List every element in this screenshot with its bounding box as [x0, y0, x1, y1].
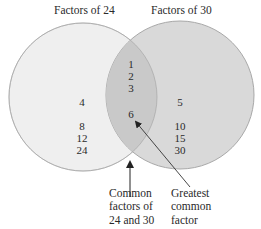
value-30: 30: [168, 144, 192, 156]
caption-greatest-common-factor: Greatest common factor: [171, 187, 211, 227]
value-24: 24: [70, 144, 94, 156]
caption-line: factors of: [109, 200, 154, 213]
value-12: 12: [70, 132, 94, 144]
caption-line: Common: [109, 187, 154, 200]
caption-line: common: [171, 200, 211, 213]
value-3: 3: [119, 82, 143, 94]
value-2: 2: [119, 70, 143, 82]
caption-line: 24 and 30: [109, 214, 154, 227]
value-8: 8: [70, 120, 94, 132]
value-6: 6: [119, 108, 143, 120]
value-15: 15: [168, 132, 192, 144]
caption-line: Greatest: [171, 187, 211, 200]
value-5: 5: [168, 96, 192, 108]
caption-common-factors: Common factors of 24 and 30: [109, 187, 154, 227]
set-label-factors-30: Factors of 30: [151, 4, 212, 17]
set-label-factors-24: Factors of 24: [54, 4, 115, 17]
value-4: 4: [70, 96, 94, 108]
caption-line: factor: [171, 214, 211, 227]
value-10: 10: [168, 120, 192, 132]
value-1: 1: [119, 58, 143, 70]
